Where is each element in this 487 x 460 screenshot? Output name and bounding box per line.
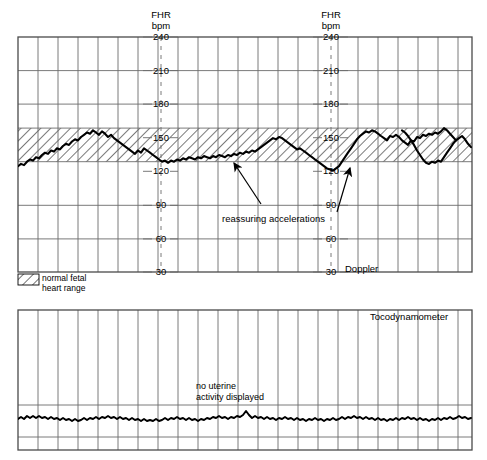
legend-label-line1: normal fetal [42, 273, 87, 283]
fhr-tick-240-right: 240 [323, 31, 339, 42]
toco-note-line1: no uterine [196, 381, 236, 391]
doppler-label: Doppler [345, 263, 378, 274]
fhr-tick-150-left: 150 [153, 132, 169, 143]
toco-plot-background [18, 310, 472, 450]
tocodynamometer-label: Tocodynamometer [370, 311, 448, 322]
annotation-text: reassuring accelerations [222, 213, 325, 224]
legend-label-line2: heart range [42, 283, 86, 293]
monitor-strip-chart: FHR bpm 240 210 180 150 [0, 0, 487, 460]
fhr-tick-240-left: 240 [153, 31, 169, 42]
fhr-tick-60-left: 60 [156, 233, 167, 244]
fhr-tick-90-right: 90 [326, 199, 337, 210]
fhr-tick-120-right: 120 [323, 165, 339, 176]
fhr-tick-180-right: 180 [323, 98, 339, 109]
fhr-axis-title-left: FHR [151, 9, 171, 20]
fhr-axis-title-right: FHR [321, 9, 341, 20]
chart-svg: FHR bpm 240 210 180 150 [0, 0, 487, 460]
fhr-axis-units-left: bpm [152, 20, 171, 31]
toco-note-line2: activity displayed [196, 392, 264, 402]
fhr-tick-210-right: 210 [323, 65, 339, 76]
toco-panel: Tocodynamometer no uterine activity disp… [18, 310, 472, 450]
legend: normal fetal heart range [18, 273, 87, 293]
fhr-tick-210-left: 210 [153, 65, 169, 76]
fhr-tick-150-right: 150 [323, 132, 339, 143]
fhr-axis-units-right: bpm [322, 20, 341, 31]
fhr-tick-30-right: 30 [326, 266, 337, 277]
fhr-tick-90-left: 90 [156, 199, 167, 210]
fhr-tick-30-left: 30 [156, 266, 167, 277]
fhr-tick-120-left: 120 [153, 165, 169, 176]
fhr-tick-180-left: 180 [153, 98, 169, 109]
fhr-tick-60-right: 60 [326, 233, 337, 244]
legend-swatch-hatched [18, 274, 39, 285]
fhr-panel: FHR bpm 240 210 180 150 [18, 9, 472, 293]
